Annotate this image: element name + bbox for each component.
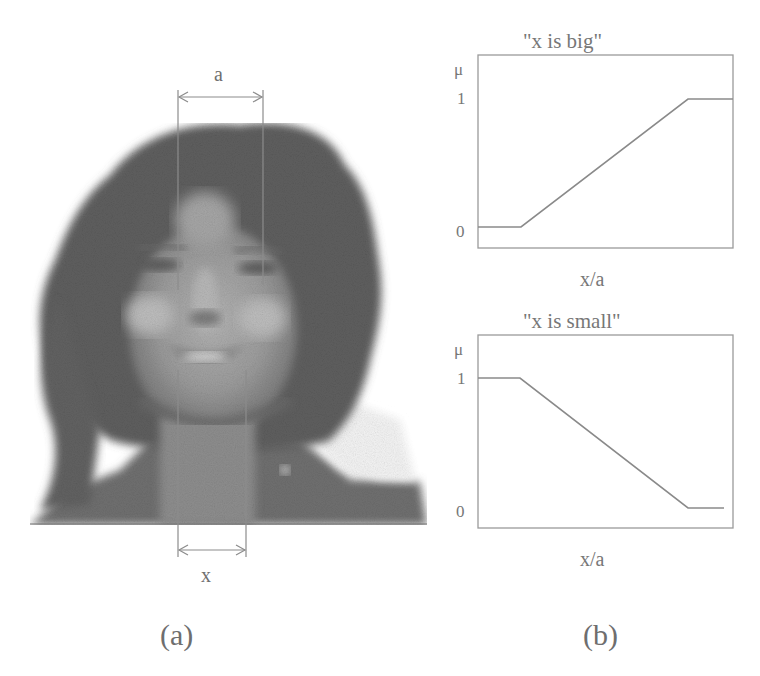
- dimension-x: [0, 0, 440, 676]
- panel-b: "x is big" μ 1 0 x/a "x is small" μ 1 0 …: [440, 0, 760, 676]
- y-tick-0: 0: [456, 502, 465, 522]
- chart-x-is-big: "x is big" μ 1 0 x/a: [440, 0, 760, 300]
- y-axis-label: μ: [454, 60, 463, 80]
- chart-x-is-small: "x is small" μ 1 0 x/a: [440, 280, 760, 580]
- panel-a: a x (a): [0, 0, 440, 676]
- y-tick-0: 0: [456, 222, 465, 242]
- panel-a-label: (a): [160, 618, 193, 652]
- membership-curve: [478, 378, 724, 508]
- plot-area: [440, 0, 760, 300]
- plot-area: [440, 280, 760, 580]
- membership-curve: [478, 99, 733, 227]
- dimension-x-label: x: [201, 564, 211, 587]
- x-axis-label: x/a: [580, 548, 604, 571]
- y-tick-1: 1: [457, 89, 466, 109]
- panel-b-label: (b): [583, 618, 618, 652]
- y-axis-label: μ: [454, 340, 463, 360]
- y-tick-1: 1: [457, 369, 466, 389]
